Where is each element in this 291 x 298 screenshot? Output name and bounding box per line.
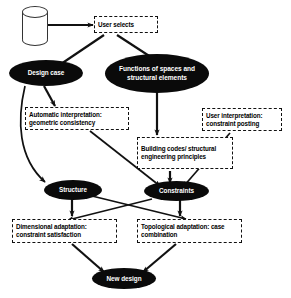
node-structure[interactable]: Structure (44, 180, 102, 200)
node-dimensional-adaptation[interactable]: Dimensional adaptation: constraint satis… (12, 219, 117, 243)
node-automatic-interpretation-label: Automatic interpretation: geometric cons… (29, 111, 125, 126)
node-automatic-interpretation[interactable]: Automatic interpretation: geometric cons… (25, 107, 129, 130)
node-functions-of-spaces[interactable]: Functions of spaces and structural eleme… (105, 54, 209, 93)
case-base-cylinder-icon (22, 6, 48, 47)
node-topological-adaptation-label: Topological adaptation: case combination (141, 223, 238, 238)
node-dimensional-adaptation-label: Dimensional adaptation: constraint satis… (16, 223, 113, 238)
node-functions-of-spaces-label: Functions of spaces and structural eleme… (115, 65, 199, 82)
edge-dimensional-to-newdesign (72, 244, 104, 272)
edge-designcase-to-structure (21, 86, 45, 182)
node-design-case-label: Design case (28, 69, 65, 76)
flow-diagram: User selects Design case Functions of sp… (0, 0, 291, 298)
node-user-selects-label: User selects (98, 21, 134, 29)
cylinder-top-ellipse (22, 6, 48, 18)
node-new-design-label: New design (106, 275, 141, 282)
node-new-design[interactable]: New design (92, 268, 156, 289)
node-building-codes-label: Building codes/ structural engineering p… (141, 145, 229, 160)
node-constraints[interactable]: Constraints (144, 181, 209, 201)
node-user-selects[interactable]: User selects (94, 16, 158, 33)
node-design-case[interactable]: Design case (9, 60, 83, 86)
node-building-codes[interactable]: Building codes/ structural engineering p… (137, 137, 233, 169)
edge-constraints-to-dimensional (68, 199, 152, 220)
node-structure-label: Structure (59, 186, 87, 193)
node-topological-adaptation[interactable]: Topological adaptation: case combination (137, 219, 242, 243)
node-user-interpretation-label: User interpretation: constraint posting (206, 112, 278, 127)
edge-designcase-to-autointerp (44, 86, 55, 106)
node-constraints-label: Constraints (159, 187, 194, 194)
edge-topological-to-newdesign (143, 244, 176, 272)
node-user-interpretation[interactable]: User interpretation: constraint posting (202, 108, 282, 131)
